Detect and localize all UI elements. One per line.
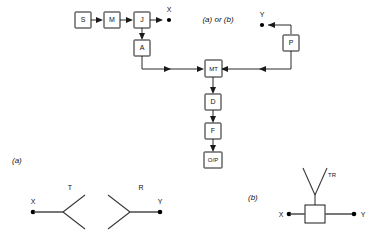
wire-p-to-mt <box>221 51 291 72</box>
center-note-a-or-b: (a) or (b) <box>202 15 233 24</box>
antenna-label-tr: TR <box>328 172 337 178</box>
block-op-label: O/P <box>208 157 218 163</box>
block-s[interactable]: S <box>75 12 91 28</box>
terminal-label-x-panel-b: X <box>279 211 284 218</box>
antenna-label-r: R <box>138 184 143 191</box>
wire-j-to-a <box>139 28 145 40</box>
block-a-label: A <box>140 44 145 51</box>
antenna-symbol-receive <box>108 195 162 229</box>
wire-x-to-duplexer <box>287 212 305 217</box>
block-p[interactable]: P <box>283 35 299 51</box>
terminal-dot-y-top <box>260 23 264 27</box>
terminal-dot-x-top <box>167 18 171 22</box>
wire-a-to-mt <box>142 56 204 72</box>
wire-mt-to-d <box>210 77 216 94</box>
block-op[interactable]: O/P <box>204 152 222 168</box>
panel-b-label: (b) <box>248 193 258 202</box>
block-m[interactable]: M <box>104 12 120 28</box>
wire-y-to-p <box>260 22 291 34</box>
terminal-label-y-panel-a: Y <box>158 198 163 205</box>
block-j-label: J <box>140 16 144 23</box>
block-f-label: F <box>211 127 215 134</box>
duplexer-block[interactable] <box>305 205 325 223</box>
wire-m-to-j <box>120 17 133 23</box>
terminal-label-x-panel-a: X <box>31 198 36 205</box>
block-m-label: M <box>109 16 115 23</box>
antenna-label-t: T <box>68 184 73 191</box>
block-mt[interactable]: MT <box>205 60 222 77</box>
diagram-canvas: S M J A MT D F O/P <box>0 0 371 236</box>
block-p-label: P <box>289 39 294 46</box>
wire-s-to-m <box>91 17 103 23</box>
wire-d-to-f <box>210 110 216 123</box>
antenna-symbol-transmit <box>31 195 85 229</box>
block-d-label: D <box>210 98 215 105</box>
terminal-label-x-top: X <box>167 6 172 13</box>
terminal-dot-y-panel-a <box>158 210 163 215</box>
diagram-root: S M J A MT D F O/P <box>0 0 371 236</box>
block-a[interactable]: A <box>134 40 150 56</box>
terminal-label-y-top: Y <box>260 11 265 18</box>
antenna-symbol-transmit-receive <box>303 168 327 205</box>
wire-f-to-op <box>210 139 216 152</box>
block-s-label: S <box>81 16 86 23</box>
block-d[interactable]: D <box>205 94 221 110</box>
block-f[interactable]: F <box>205 123 221 139</box>
wire-duplexer-to-y <box>325 212 356 217</box>
block-j[interactable]: J <box>134 12 150 28</box>
block-mt-label: MT <box>209 66 218 72</box>
terminal-dot-y-panel-b <box>352 212 357 217</box>
wire-j-to-x <box>150 17 171 23</box>
panel-a-label: (a) <box>12 156 22 165</box>
terminal-label-y-panel-b: Y <box>361 211 366 218</box>
